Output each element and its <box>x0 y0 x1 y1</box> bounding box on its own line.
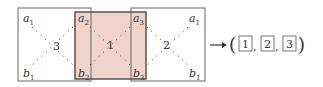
result-item-1: 1 <box>242 38 249 51</box>
label-number-left: 3 <box>53 40 60 53</box>
label-number-middle: 1 <box>107 39 114 52</box>
result-sep-2: , <box>275 40 279 53</box>
label-a1-right: a1 <box>189 12 200 27</box>
result-item-2: 2 <box>264 38 271 51</box>
label-a1-left: a1 <box>23 12 34 27</box>
tiling-diagram: a1 b1 a2 b2 a3 b3 a1 b1 3 1 2 ( 1 , 2 , … <box>0 0 323 87</box>
open-paren: ( <box>229 34 236 55</box>
label-b1-right: b1 <box>189 67 201 82</box>
close-paren: ) <box>298 34 305 55</box>
label-b1-left: b1 <box>23 67 35 82</box>
result-item-3: 3 <box>286 38 293 51</box>
result-sep-1: , <box>253 40 257 53</box>
label-number-right: 2 <box>163 39 170 52</box>
arrow-right-icon <box>210 42 227 48</box>
